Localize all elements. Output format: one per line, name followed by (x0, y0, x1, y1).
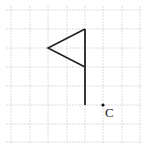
grid-diagram: C (0, 0, 146, 148)
point-c-label: C (105, 105, 114, 120)
grid-lines (6, 6, 142, 144)
